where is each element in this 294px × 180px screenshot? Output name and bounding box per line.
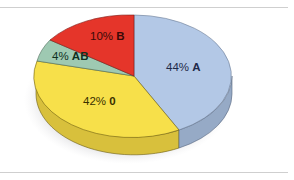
pie-chart: 44% A 42% 0 4% AB 10% B [0, 0, 294, 180]
label-b: 10% B [90, 30, 125, 42]
label-ab: 4% AB [52, 50, 88, 62]
label-a: 44% A [166, 61, 201, 73]
label-0: 42% 0 [83, 95, 116, 107]
